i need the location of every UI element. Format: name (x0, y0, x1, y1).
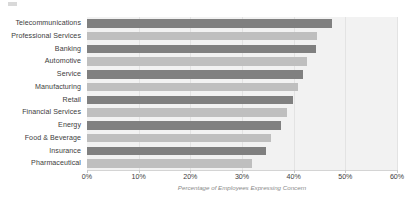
category-label: Food & Beverage (25, 132, 81, 145)
tick-label: 40% (287, 173, 301, 181)
tick-label: 60% (390, 173, 404, 181)
bar-row: Food & Beverage (0, 132, 413, 145)
bar-row: Professional Services (0, 30, 413, 43)
bar (87, 159, 252, 167)
bar (87, 70, 303, 78)
bar-rows: TelecommunicationsProfessional ServicesB… (0, 17, 413, 170)
category-label: Automotive (45, 55, 81, 68)
bar-row: Manufacturing (0, 81, 413, 94)
bar (87, 19, 332, 27)
category-label: Professional Services (11, 30, 81, 43)
bar-track (87, 17, 397, 30)
bar-track (87, 81, 397, 94)
bar-row: Financial Services (0, 106, 413, 119)
bar-track (87, 132, 397, 145)
category-label: Banking (55, 43, 81, 56)
bar (87, 147, 266, 155)
bar-track (87, 106, 397, 119)
bar-track (87, 30, 397, 43)
category-label: Service (57, 68, 81, 81)
x-axis-tick-labels: 0%10%20%30%40%50%60% (0, 173, 413, 184)
bar (87, 96, 293, 104)
bar-row: Telecommunications (0, 17, 413, 30)
bar-row: Retail (0, 94, 413, 107)
bar-track (87, 119, 397, 132)
bar-row: Banking (0, 43, 413, 56)
bar-track (87, 94, 397, 107)
tick-label: 0% (82, 173, 92, 181)
category-label: Telecommunications (15, 17, 81, 30)
bar-row: Insurance (0, 145, 413, 158)
bar (87, 83, 298, 91)
tick-label: 20% (183, 173, 197, 181)
bar-row: Service (0, 68, 413, 81)
category-label: Manufacturing (35, 81, 81, 94)
bar-row: Pharmaceutical (0, 157, 413, 170)
bar (87, 134, 271, 142)
bar-chart: TelecommunicationsProfessional ServicesB… (0, 0, 413, 205)
bar (87, 45, 316, 53)
bar-track (87, 145, 397, 158)
tick-label: 30% (235, 173, 249, 181)
category-label: Energy (58, 119, 81, 132)
bar-track (87, 157, 397, 170)
tick-label: 50% (338, 173, 352, 181)
category-label: Retail (62, 94, 81, 107)
category-label: Financial Services (22, 106, 81, 119)
bar-row: Automotive (0, 55, 413, 68)
bar (87, 121, 281, 129)
bar (87, 108, 287, 116)
bar (87, 32, 317, 40)
x-axis-title: Percentage of Employees Expressing Conce… (87, 184, 397, 191)
bar-track (87, 68, 397, 81)
category-label: Insurance (49, 145, 81, 158)
bar (87, 57, 307, 65)
bar-row: Energy (0, 119, 413, 132)
bar-track (87, 43, 397, 56)
scan-artifact (8, 2, 17, 6)
tick-label: 10% (132, 173, 146, 181)
bar-track (87, 55, 397, 68)
category-label: Pharmaceutical (31, 157, 81, 170)
